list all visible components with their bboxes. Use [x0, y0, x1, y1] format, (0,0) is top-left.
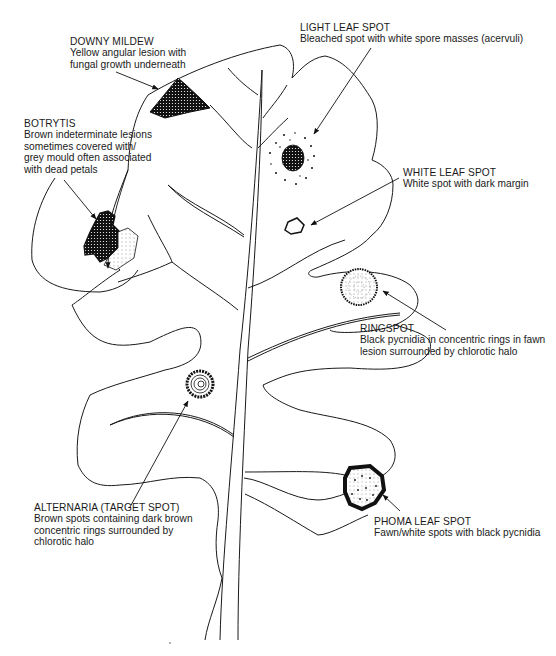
- downy-mildew-desc-2: fungal growth underneath: [70, 59, 186, 70]
- leaf-disease-diagram: DOWNY MILDEW Yellow angular lesion with …: [0, 0, 556, 656]
- phoma-leaf-spot-desc-1: Fawn/white spots with black pycnidia: [374, 527, 540, 538]
- botrytis-desc-2: sometimes covered with/: [24, 141, 152, 152]
- alternaria-desc-3: chlorotic halo: [34, 536, 193, 547]
- ringspot-desc-1: Black pycnidia in concentric rings in fa…: [360, 334, 545, 345]
- downy-mildew-desc-1: Yellow angular lesion with: [70, 47, 186, 58]
- botrytis-desc-3: grey mould often associated: [24, 152, 152, 163]
- ringspot-desc-2: lesion surrounded by chlorotic halo: [360, 346, 545, 357]
- ringspot-lesion: [341, 269, 377, 305]
- light-leaf-spot-desc-1: Bleached spot with white spore masses (a…: [300, 33, 523, 44]
- label-botrytis: BOTRYTIS Brown indeterminate lesions som…: [24, 118, 152, 175]
- label-white-leaf-spot: WHITE LEAF SPOT White spot with dark mar…: [403, 167, 529, 190]
- label-ringspot: RINGSPOT Black pycnidia in concentric ri…: [360, 323, 545, 357]
- light-leaf-spot-title: LIGHT LEAF SPOT: [300, 22, 523, 33]
- label-phoma-leaf-spot: PHOMA LEAF SPOT Fawn/white spots with bl…: [374, 516, 540, 539]
- alternaria-lesion: [187, 371, 213, 397]
- alternaria-desc-1: Brown spots containing dark brown: [34, 513, 193, 524]
- label-downy-mildew: DOWNY MILDEW Yellow angular lesion with …: [70, 36, 186, 70]
- phoma-lesion: [345, 466, 384, 509]
- light-leaf-spot-lesion: [269, 132, 315, 185]
- downy-mildew-lesion: [150, 78, 210, 118]
- label-light-leaf-spot: LIGHT LEAF SPOT Bleached spot with white…: [300, 22, 523, 45]
- botrytis-desc-4: with dead petals: [24, 164, 152, 175]
- downy-mildew-title: DOWNY MILDEW: [70, 36, 186, 47]
- phoma-leaf-spot-title: PHOMA LEAF SPOT: [374, 516, 540, 527]
- white-leaf-spot-lesion: [285, 218, 304, 234]
- ringspot-title: RINGSPOT: [360, 323, 545, 334]
- alternaria-desc-2: concentric rings surrounded by: [34, 525, 193, 536]
- stray-mark: [169, 642, 171, 644]
- white-leaf-spot-desc-1: White spot with dark margin: [403, 178, 529, 189]
- label-alternaria: ALTERNARIA (TARGET SPOT) Brown spots con…: [34, 502, 193, 548]
- alternaria-title: ALTERNARIA (TARGET SPOT): [34, 502, 193, 513]
- white-leaf-spot-title: WHITE LEAF SPOT: [403, 167, 529, 178]
- botrytis-desc-1: Brown indeterminate lesions: [24, 129, 152, 140]
- botrytis-title: BOTRYTIS: [24, 118, 152, 129]
